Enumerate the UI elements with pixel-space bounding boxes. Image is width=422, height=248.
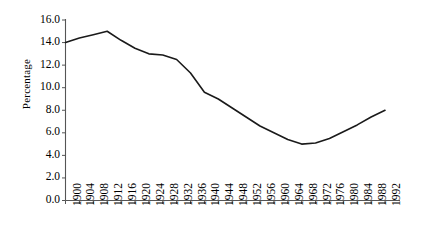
- x-tick-label: 1900: [71, 183, 83, 206]
- x-tick-label: 1960: [279, 183, 291, 206]
- x-tick-label: 1916: [126, 183, 138, 206]
- x-tick-label: 1944: [223, 183, 235, 206]
- x-tick-label: 1976: [334, 183, 346, 206]
- x-tick-label: 1940: [209, 183, 221, 206]
- x-tick-label: 1932: [182, 183, 194, 206]
- x-tick-label: 1964: [293, 183, 305, 206]
- y-tick-label: 6.0: [26, 125, 60, 137]
- data-series-line: [66, 31, 386, 144]
- x-tick-label: 1984: [362, 183, 374, 206]
- y-tick-label: 8.0: [26, 103, 60, 115]
- plot-area: [0, 0, 422, 248]
- x-tick-label: 1980: [348, 183, 360, 206]
- x-tick-label: 1968: [307, 183, 319, 206]
- x-tick-label: 1956: [265, 183, 277, 206]
- x-tick-label: 1908: [98, 183, 110, 206]
- x-tick-label: 1988: [376, 183, 388, 206]
- x-tick-label: 1948: [237, 183, 249, 206]
- y-tick-label: 12.0: [26, 58, 60, 70]
- x-tick-label: 1920: [140, 183, 152, 206]
- y-tick-label: 14.0: [26, 35, 60, 47]
- y-tick-label: 0.0: [26, 193, 60, 205]
- x-tick-label: 1936: [196, 183, 208, 206]
- x-tick-label: 1952: [251, 183, 263, 206]
- x-tick-label: 1992: [390, 183, 402, 206]
- y-tick-label: 2.0: [26, 170, 60, 182]
- axes: [62, 19, 400, 204]
- x-tick-label: 1928: [168, 183, 180, 206]
- x-tick-label: 1972: [321, 183, 333, 206]
- x-tick-label: 1912: [112, 183, 124, 206]
- y-tick-label: 4.0: [26, 148, 60, 160]
- x-tick-label: 1924: [154, 183, 166, 206]
- y-tick-label: 16.0: [26, 13, 60, 25]
- x-tick-label: 1904: [84, 183, 96, 206]
- line-chart: Percentage 0.02.04.06.08.010.012.014.016…: [0, 0, 422, 248]
- y-tick-label: 10.0: [26, 80, 60, 92]
